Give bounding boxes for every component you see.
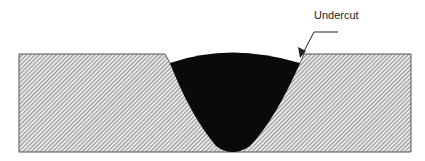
weld-cross-section xyxy=(0,0,425,161)
leader-line xyxy=(302,32,338,55)
undercut-label: Undercut xyxy=(314,9,359,21)
weld-diagram: Undercut xyxy=(0,0,425,161)
